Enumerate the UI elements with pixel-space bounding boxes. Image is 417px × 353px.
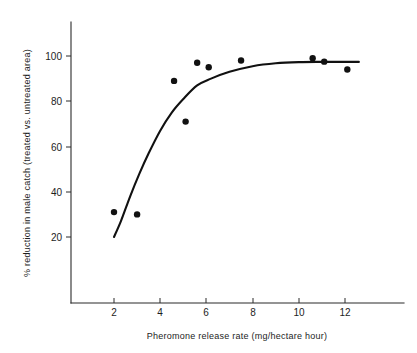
data-point	[111, 209, 117, 215]
x-axis-ticks	[114, 298, 345, 303]
data-point	[238, 57, 244, 63]
data-point	[171, 78, 177, 84]
data-point	[206, 64, 212, 70]
data-point	[194, 60, 200, 66]
y-tick-label-20: 20	[51, 232, 63, 243]
data-points	[111, 55, 351, 218]
chart-figure: 100 80 60 40 20 2 4 6 8 10 12 Pheromone …	[0, 0, 417, 353]
x-tick-label-6: 6	[203, 307, 209, 318]
data-point	[321, 58, 327, 64]
x-axis-title: Pheromone release rate (mg/hectare hour)	[147, 331, 328, 341]
data-point	[344, 66, 350, 72]
x-tick-label-10: 10	[293, 307, 305, 318]
x-tick-label-8: 8	[250, 307, 256, 318]
data-point	[182, 118, 188, 124]
fitted-curve	[114, 62, 359, 237]
y-tick-label-100: 100	[45, 51, 62, 62]
x-tick-label-4: 4	[157, 307, 163, 318]
x-tick-label-12: 12	[339, 307, 351, 318]
y-axis-tick-labels: 100 80 60 40 20	[45, 51, 62, 243]
y-tick-label-40: 40	[51, 187, 63, 198]
y-tick-label-80: 80	[51, 96, 63, 107]
data-point	[134, 211, 140, 217]
data-point	[309, 55, 315, 61]
y-axis-title: % reduction in male catch (treated vs. u…	[22, 49, 32, 277]
x-tick-label-2: 2	[111, 307, 117, 318]
y-axis-ticks	[66, 56, 71, 237]
y-tick-label-60: 60	[51, 142, 63, 153]
plot-canvas: 100 80 60 40 20 2 4 6 8 10 12 Pheromone …	[0, 0, 417, 353]
x-axis-tick-labels: 2 4 6 8 10 12	[111, 307, 351, 318]
